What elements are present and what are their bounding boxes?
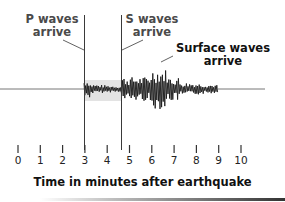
tick-label: 3 [75,154,95,166]
tick-label: 5 [120,154,140,166]
s-wave-leader [122,40,143,50]
s-waves-label: S waves arrive [122,13,182,39]
tick-label: 6 [142,154,162,166]
s-waves-label-line2: arrive [122,26,182,39]
tick-label: 7 [164,154,184,166]
p-waves-label-line2: arrive [22,26,82,39]
surface-waves-label: Surface waves arrive [168,42,278,68]
tick-label: 0 [8,154,28,166]
tick-label: 4 [97,154,117,166]
p-wave-leader [63,40,84,50]
tick-label: 2 [53,154,73,166]
bottom-rule [40,198,285,201]
tick-label: 1 [30,154,50,166]
p-waves-label: P waves arrive [22,13,82,39]
tick-label: 10 [231,154,251,166]
tick-label: 9 [209,154,229,166]
time-axis-ticks [18,145,241,153]
seismogram-diagram: P waves arrive S waves arrive Surface wa… [0,0,285,202]
surface-waves-label-line2: arrive [168,55,278,68]
time-axis-title: Time in minutes after earthquake [0,175,285,189]
seismic-trace [84,71,218,109]
tick-label: 8 [186,154,206,166]
